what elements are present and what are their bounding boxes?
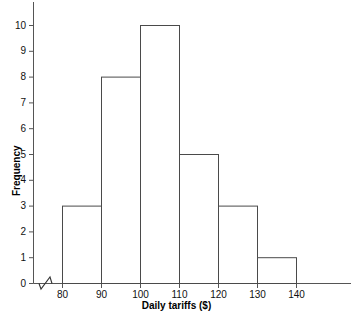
histogram-bars xyxy=(63,26,297,284)
y-tick-label: 9 xyxy=(14,46,26,56)
histogram-chart: 10 9 8 7 6 5 4 3 2 1 0 80 90 100 110 120… xyxy=(0,0,353,318)
histogram-bar xyxy=(63,206,102,283)
y-tick-label: 2 xyxy=(14,227,26,237)
y-tick-label: 1 xyxy=(14,253,26,263)
y-tick-label: 3 xyxy=(14,201,26,211)
x-axis-title: Daily tariffs ($) xyxy=(0,300,353,311)
y-tick-label: 6 xyxy=(14,124,26,134)
x-tick-label: 90 xyxy=(88,290,116,300)
y-axis-title: Frequency xyxy=(11,145,22,196)
histogram-bar xyxy=(141,26,180,284)
chart-plot-area xyxy=(0,0,353,318)
x-tick-label: 110 xyxy=(166,290,194,300)
x-tick-label: 80 xyxy=(49,290,77,300)
y-tick-label: 8 xyxy=(14,72,26,82)
histogram-bar xyxy=(258,258,297,284)
x-tick-label: 100 xyxy=(127,290,155,300)
y-axis-ticks xyxy=(29,26,34,284)
x-tick-label: 140 xyxy=(283,290,311,300)
x-tick-label: 120 xyxy=(205,290,233,300)
histogram-bar xyxy=(102,77,141,283)
x-tick-label: 130 xyxy=(244,290,272,300)
histogram-bar xyxy=(219,206,258,283)
y-tick-label: 7 xyxy=(14,98,26,108)
y-tick-label: 0 xyxy=(14,279,26,289)
y-tick-label: 10 xyxy=(14,21,26,31)
histogram-bar xyxy=(180,155,219,284)
x-axis-ticks xyxy=(63,284,297,289)
